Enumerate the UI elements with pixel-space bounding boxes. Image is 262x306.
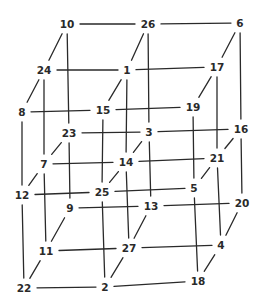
node-label-5: 5 <box>190 183 197 194</box>
edge-6-17 <box>222 33 235 57</box>
node-label-23: 23 <box>62 128 77 139</box>
node-label-19: 19 <box>186 102 201 113</box>
edge-27-4 <box>142 245 212 247</box>
edge-3-13 <box>149 142 150 196</box>
edge-20-4 <box>226 213 237 235</box>
node-label-4: 4 <box>217 240 224 251</box>
edge-26-1 <box>132 34 144 60</box>
node-label-22: 22 <box>17 283 32 294</box>
edge-4-18 <box>204 255 215 272</box>
edge-17-19 <box>199 77 211 98</box>
node-label-16: 16 <box>234 124 249 135</box>
edge-6-16 <box>240 33 241 119</box>
edge-10-24 <box>49 34 62 60</box>
node-label-9: 9 <box>66 203 73 214</box>
edge-22-2 <box>37 287 96 288</box>
node-label-26: 26 <box>141 19 156 30</box>
node-label-21: 21 <box>210 153 225 164</box>
edge-21-4 <box>218 168 221 235</box>
edge-24-8 <box>27 80 39 102</box>
edge-9-13 <box>79 206 138 208</box>
edge-10-23 <box>67 34 69 123</box>
edge-26-3 <box>148 34 149 122</box>
edge-19-5 <box>193 117 194 178</box>
edge-14-27 <box>126 172 128 238</box>
edge-5-18 <box>194 198 197 271</box>
node-label-27: 27 <box>122 243 137 254</box>
edge-14-25 <box>110 172 119 183</box>
edge-15-25 <box>102 120 103 182</box>
edge-16-21 <box>225 139 233 149</box>
magic-cube-diagram: 1026624117815192331671421122559132011274… <box>0 0 262 306</box>
edge-13-27 <box>134 216 146 238</box>
edge-21-5 <box>201 168 209 179</box>
edge-26-6 <box>161 23 231 24</box>
edge-16-20 <box>241 139 242 193</box>
node-label-15: 15 <box>96 105 111 116</box>
node-label-3: 3 <box>145 127 152 138</box>
node-label-13: 13 <box>144 201 159 212</box>
node-label-18: 18 <box>191 276 206 287</box>
node-label-8: 8 <box>18 107 25 118</box>
edge-1-15 <box>109 80 121 101</box>
edge-23-7 <box>52 143 62 155</box>
node-label-12: 12 <box>15 190 30 201</box>
edge-7-14 <box>53 162 113 164</box>
edge-1-14 <box>126 80 127 152</box>
edge-25-2 <box>102 202 104 277</box>
edge-2-18 <box>114 282 185 287</box>
node-label-25: 25 <box>95 187 110 198</box>
edge-3-14 <box>133 142 141 153</box>
node-label-2: 2 <box>101 282 108 293</box>
edge-12-22 <box>22 205 24 278</box>
node-label-20: 20 <box>235 198 250 209</box>
edge-15-19 <box>116 107 180 109</box>
edge-11-27 <box>59 249 116 251</box>
node-label-10: 10 <box>60 19 75 30</box>
edge-23-3 <box>82 132 140 133</box>
node-label-6: 6 <box>236 18 243 29</box>
node-label-14: 14 <box>119 157 134 168</box>
edge-8-15 <box>31 110 90 112</box>
node-label-11: 11 <box>39 246 54 257</box>
edge-23-9 <box>69 143 70 198</box>
edge-1-17 <box>136 67 204 69</box>
edge-7-11 <box>44 174 46 241</box>
edge-27-2 <box>111 258 123 278</box>
node-label-24: 24 <box>37 65 52 76</box>
edge-11-22 <box>30 261 40 279</box>
node-label-7: 7 <box>40 159 47 170</box>
edge-12-25 <box>35 193 89 195</box>
node-label-1: 1 <box>123 65 130 76</box>
edge-7-12 <box>29 174 37 186</box>
node-label-17: 17 <box>210 62 225 73</box>
edge-9-11 <box>51 218 64 242</box>
